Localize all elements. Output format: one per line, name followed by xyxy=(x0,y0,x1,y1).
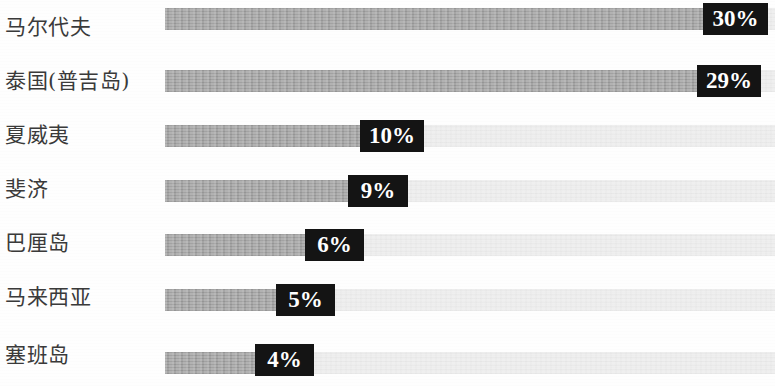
chart-row: 夏威夷 10% xyxy=(0,108,775,162)
category-label: 马来西亚 xyxy=(5,270,160,324)
chart-row: 马尔代夫 30% xyxy=(0,0,775,54)
chart-row: 塞班岛 4% xyxy=(0,324,775,378)
horizontal-bar-chart: 马尔代夫 30% 泰国(普吉岛) 29% 夏威夷 10% 斐济 9% 巴厘岛 6… xyxy=(0,0,775,386)
bar-fill xyxy=(165,8,718,30)
chart-row: 泰国(普吉岛) 29% xyxy=(0,54,775,108)
value-label: 10% xyxy=(360,120,424,152)
bar-fill xyxy=(165,125,362,147)
value-label: 6% xyxy=(305,229,364,261)
bar-fill xyxy=(165,352,262,374)
value-label: 4% xyxy=(255,344,314,376)
chart-row: 斐济 9% xyxy=(0,162,775,216)
value-label: 5% xyxy=(276,284,335,316)
value-label: 30% xyxy=(703,3,768,35)
category-label: 夏威夷 xyxy=(5,108,160,162)
bar-fill xyxy=(165,180,350,202)
category-label: 泰国(普吉岛) xyxy=(5,54,160,108)
chart-row: 巴厘岛 6% xyxy=(0,216,775,270)
category-label: 斐济 xyxy=(5,162,160,216)
category-label: 塞班岛 xyxy=(5,324,160,378)
value-label: 9% xyxy=(348,175,408,207)
bar-fill xyxy=(165,289,283,311)
chart-row: 马来西亚 5% xyxy=(0,270,775,324)
category-label: 巴厘岛 xyxy=(5,216,160,270)
bar-fill xyxy=(165,70,702,92)
bar-fill xyxy=(165,234,305,256)
category-label: 马尔代夫 xyxy=(5,0,160,54)
value-label: 29% xyxy=(697,65,761,97)
